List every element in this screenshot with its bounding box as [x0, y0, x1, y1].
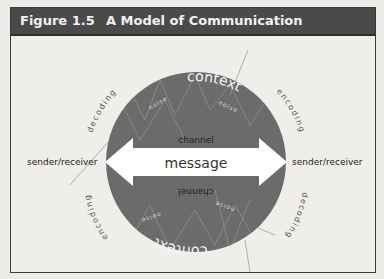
noise-line-outer: [245, 240, 250, 272]
right-sender-receiver-label: sender/receiver: [292, 157, 363, 167]
right-decoding-label: decoding: [283, 192, 310, 241]
channel-top-label: channel: [178, 135, 214, 145]
message-label: message: [165, 155, 228, 171]
channel-bottom-label: channel: [178, 187, 214, 197]
left-encoding-label: encoding: [83, 193, 110, 242]
right-encoding-label: encoding: [275, 87, 307, 134]
communication-model-diagram: message channel channel context context …: [0, 0, 384, 279]
noise-line-outer: [258, 228, 275, 235]
left-sender-receiver-label: sender/receiver: [27, 157, 98, 167]
